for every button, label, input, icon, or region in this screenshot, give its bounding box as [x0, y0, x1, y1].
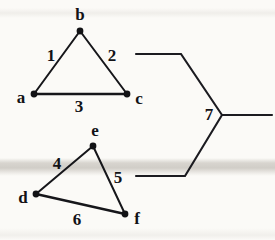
edge-label-4-text: 4: [53, 155, 62, 172]
edge-label-5-text: 5: [114, 169, 123, 186]
vertex-label-c-text: c: [135, 90, 143, 107]
vertex-label-f-text: f: [134, 210, 140, 227]
vertex-label-b: b: [80, 14, 89, 31]
vertex-label-b-text: b: [75, 6, 84, 23]
edge-label-3-text: 3: [75, 98, 84, 115]
edge-label-4: 4: [57, 163, 66, 180]
edge-label-6-text: 6: [73, 211, 82, 228]
vertex-label-e-text: e: [91, 122, 99, 139]
edge-label-5: 5: [118, 177, 127, 194]
vertex-dot-d: [33, 191, 40, 198]
vertex-dot-f: [122, 211, 129, 218]
vertex-dot-c: [124, 91, 131, 98]
graph-merge-figure: 123bac456edf7: [0, 0, 275, 240]
vertex-label-c: c: [139, 98, 147, 115]
edge-label-6: 6: [77, 219, 86, 236]
vertex-label-e: e: [95, 130, 103, 147]
vertex-dot-a: [31, 91, 38, 98]
vertex-label-d-text: d: [18, 189, 27, 206]
merge-label: 7: [209, 114, 218, 131]
vertex-label-d: d: [23, 197, 32, 214]
edge-label-2: 2: [112, 55, 121, 72]
edge-label-3: 3: [79, 106, 88, 123]
vertex-label-f: f: [137, 218, 143, 235]
edge-label-1: 1: [51, 55, 60, 72]
vertex-label-a: a: [21, 97, 30, 114]
merge-label-text: 7: [205, 106, 214, 123]
figure-canvas: [0, 0, 275, 240]
edge-label-1-text: 1: [47, 47, 56, 64]
edge-label-2-text: 2: [108, 47, 117, 64]
vertex-label-a-text: a: [17, 89, 26, 106]
